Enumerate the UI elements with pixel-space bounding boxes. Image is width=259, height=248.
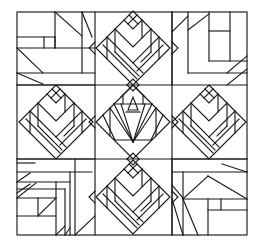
- quilt-seam-line: [172, 16, 188, 32]
- quilt-seam-line: [55, 12, 82, 36]
- quilt-seam-line: [75, 216, 95, 235]
- quilt-seam-line: [188, 14, 209, 30]
- quilt-pattern-drawing: [0, 0, 259, 248]
- quilt-seam-line: [17, 48, 43, 73]
- quilt-seam-line: [38, 198, 56, 216]
- block-top-left: [17, 12, 95, 85]
- quilt-seam-line: [208, 176, 247, 199]
- block-bottom-center-tulip: [96, 160, 170, 234]
- block-center-fan: [96, 85, 170, 159]
- quilt-seam-line: [227, 69, 247, 85]
- quilt-seam-line: [17, 173, 30, 182]
- quilt-seam-line: [82, 12, 92, 37]
- block-top-right: [172, 12, 247, 85]
- quilt-seam-line: [222, 164, 247, 172]
- block-middle-right-tulip: [172, 85, 246, 159]
- block-bottom-right: [172, 159, 247, 235]
- quilt-seam-line: [172, 199, 183, 235]
- quilt-seam-line: [65, 228, 70, 235]
- block-middle-left-tulip: [19, 85, 93, 159]
- block-top-center-tulip: [96, 11, 170, 85]
- quilt-seam-line: [183, 176, 208, 199]
- quilt-seam-line: [183, 199, 198, 235]
- quilt-seam-line: [17, 73, 43, 84]
- block-bottom-left: [17, 159, 95, 235]
- grid-junction-marks: [89, 42, 178, 203]
- quilt-seam-line: [56, 226, 65, 235]
